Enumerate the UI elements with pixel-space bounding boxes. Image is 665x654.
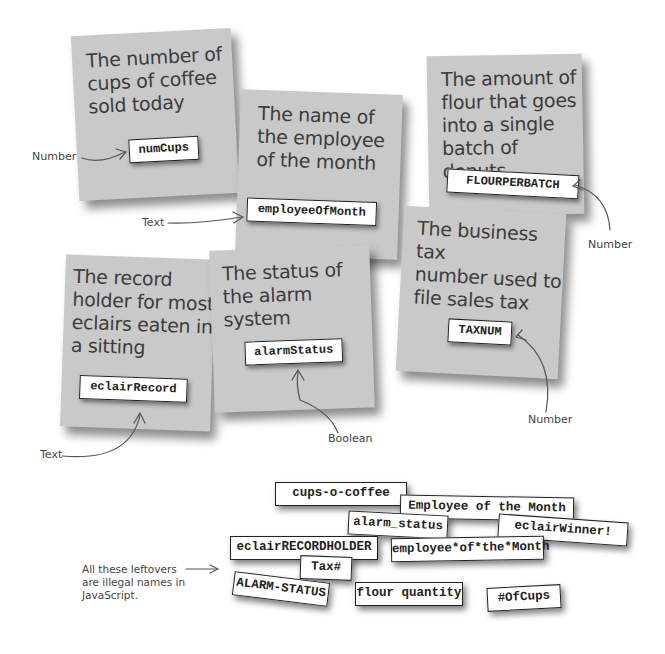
sticky-note-employee: The name of the employee of the month em… (235, 89, 403, 260)
note-description: The name of the employee of the month (256, 102, 386, 175)
type-label-number: Number (588, 238, 632, 252)
note-description: The record holder for most eclairs eaten… (70, 265, 215, 362)
note-description: The status of the alarm system (222, 257, 372, 331)
sticky-note-alarm: The status of the alarm system alarmStat… (209, 245, 375, 412)
variable-label-employeeOfMonth: employeeOfMonth (246, 198, 377, 227)
type-label-number: Number (32, 150, 76, 164)
sticky-note-flour: The amount of flour that goes into a sin… (427, 54, 585, 217)
sticky-note-tax: The business tax number used to file sal… (396, 206, 566, 379)
illegal-name-flour-quantity: flour quantity (355, 582, 463, 606)
type-label-number: Number (528, 413, 572, 427)
variable-label-numCups: numCups (128, 136, 199, 164)
leftovers-caption: All these leftovers are illegal names in… (82, 563, 185, 602)
illegal-name-tax-hash: Tax# (300, 555, 353, 581)
illegal-name-cups-o-coffee: cups-o-coffee (275, 482, 407, 506)
note-description: The business tax number used to file sal… (413, 217, 566, 317)
variable-label-alarmStatus: alarmStatus (244, 338, 343, 365)
type-label-text: Text (40, 448, 62, 462)
illegal-name-employee-star-of-star-the-star-month: employee*of*the*Month (391, 536, 544, 563)
note-description: The number of cups of coffee sold today (86, 42, 225, 118)
sticky-note-eclair: The record holder for most eclairs eaten… (60, 254, 216, 431)
variable-label-TAXNUM: TAXNUM (447, 318, 512, 345)
note-description: The amount of flour that goes into a sin… (441, 66, 584, 183)
type-label-boolean: Boolean (328, 432, 373, 446)
sticky-note-coffee: The number of cups of coffee sold today … (71, 28, 239, 201)
type-label-text: Text (142, 216, 164, 230)
illegal-name-hash-OfCups: #OfCups (486, 584, 561, 612)
variable-label-eclairRecord: eclairRecord (79, 375, 188, 403)
